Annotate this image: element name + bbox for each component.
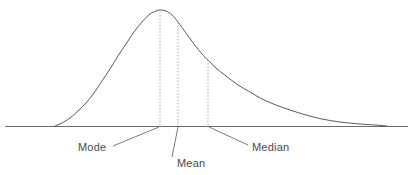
- distribution-chart-svg: Mode Mean Median: [0, 0, 412, 175]
- mode-label: Mode: [78, 141, 106, 153]
- density-curve: [55, 10, 387, 126]
- mean-label: Mean: [177, 157, 205, 169]
- median-label: Median: [252, 141, 289, 153]
- distribution-diagram: Mode Mean Median: [0, 0, 412, 175]
- median-leader-line: [209, 127, 248, 145]
- mode-leader-line: [113, 127, 159, 146]
- mean-leader-line: [172, 127, 178, 157]
